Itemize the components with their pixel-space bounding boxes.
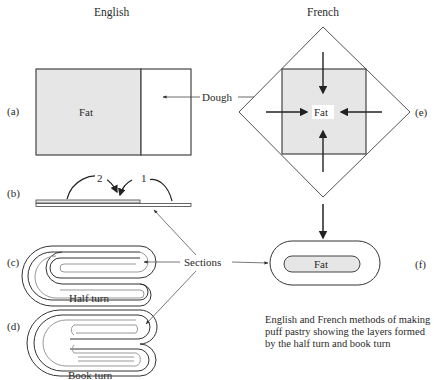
panel-label-c: (c) (7, 256, 19, 268)
header-english: English (94, 6, 129, 18)
fat-label-f: Fat (314, 258, 328, 270)
panel-label-a: (a) (7, 105, 19, 117)
dough-label: Dough (202, 91, 232, 103)
figure-caption: English and French methods of making puf… (265, 314, 434, 350)
fold-step-1: 1 (141, 172, 147, 184)
english-folded-strips (36, 200, 191, 207)
panel-label-e: (e) (415, 106, 427, 118)
sections-label: Sections (184, 256, 221, 268)
panel-label-d: (d) (7, 320, 20, 332)
half-turn-label: Half turn (69, 292, 109, 304)
fat-label-a: Fat (79, 106, 93, 118)
panel-label-f: (f) (415, 258, 426, 270)
english-dough-rectangle (36, 69, 191, 155)
panel-label-b: (b) (7, 187, 20, 199)
fat-label-e: Fat (314, 106, 328, 118)
book-turn-layers (27, 310, 157, 376)
header-french: French (307, 6, 339, 18)
fold-step-2: 2 (97, 172, 103, 184)
book-turn-label: Book turn (68, 369, 112, 380)
fold-arc-arrows (67, 174, 172, 201)
